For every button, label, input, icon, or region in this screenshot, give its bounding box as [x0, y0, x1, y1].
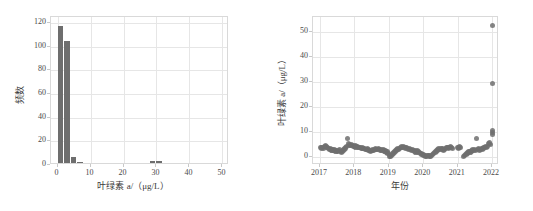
y-tick-label: 50	[286, 27, 308, 35]
panel-scatter: 01020304050 201720182019202020212022 年份 …	[266, 0, 533, 211]
scatter-point	[490, 81, 495, 86]
gridline-horizontal	[51, 23, 227, 24]
gridline-horizontal	[313, 107, 497, 108]
x-tick-label: 50	[203, 169, 239, 177]
histogram-bar	[58, 26, 64, 163]
x-tick-mark	[221, 164, 222, 167]
x-tick-label: 2017	[301, 169, 337, 177]
gridline-horizontal	[313, 157, 497, 158]
scatter-plot-area	[312, 16, 498, 164]
histogram-bar	[64, 41, 70, 163]
x-tick-mark	[457, 164, 458, 167]
scatter-point	[458, 145, 463, 150]
x-tick-mark	[90, 164, 91, 167]
y-tick-label: 20	[24, 136, 46, 144]
gridline-horizontal	[51, 70, 227, 71]
y-tick-mark	[309, 81, 312, 82]
y-tick-mark	[47, 69, 50, 70]
y-tick-label: 10	[286, 127, 308, 135]
y-tick-mark	[47, 22, 50, 23]
y-tick-label: 0	[24, 160, 46, 168]
histogram-bar	[150, 161, 156, 163]
figure-two-panel-chlorophyll: 020406080100120 01020304050 叶绿素 a/（μg/L）…	[0, 0, 533, 211]
x-tick-mark	[491, 164, 492, 167]
gridline-horizontal	[313, 82, 497, 83]
gridline-vertical	[354, 17, 355, 163]
y-tick-label: 120	[24, 18, 46, 26]
x-tick-mark	[155, 164, 156, 167]
gridline-vertical	[492, 17, 493, 163]
y-tick-label: 60	[24, 89, 46, 97]
scatter-point	[474, 136, 479, 141]
x-tick-mark	[188, 164, 189, 167]
y-tick-label: 20	[286, 102, 308, 110]
gridline-horizontal	[313, 57, 497, 58]
x-tick-mark	[57, 164, 58, 167]
x-tick-label: 2020	[404, 169, 440, 177]
y-tick-mark	[47, 46, 50, 47]
histogram-x-axis-title: 叶绿素 a/（μg/L）	[0, 182, 266, 191]
x-tick-mark	[388, 164, 389, 167]
x-tick-label: 30	[137, 169, 173, 177]
gridline-vertical	[320, 17, 321, 163]
gridline-horizontal	[313, 32, 497, 33]
y-tick-label: 40	[24, 113, 46, 121]
x-tick-label: 20	[105, 169, 141, 177]
panel-histogram: 020406080100120 01020304050 叶绿素 a/（μg/L）…	[0, 0, 266, 211]
gridline-vertical	[423, 17, 424, 163]
x-tick-label: 10	[72, 169, 108, 177]
gridline-horizontal	[51, 47, 227, 48]
y-tick-mark	[309, 131, 312, 132]
x-tick-label: 40	[170, 169, 206, 177]
x-tick-label: 2021	[439, 169, 475, 177]
x-tick-mark	[123, 164, 124, 167]
y-tick-label: 0	[286, 152, 308, 160]
y-tick-mark	[47, 140, 50, 141]
y-tick-mark	[47, 93, 50, 94]
gridline-vertical	[458, 17, 459, 163]
gridline-vertical	[389, 17, 390, 163]
x-tick-mark	[353, 164, 354, 167]
x-tick-label: 2022	[473, 169, 509, 177]
histogram-y-axis-title: 频数	[16, 86, 25, 104]
gridline-horizontal	[51, 141, 227, 142]
histogram-plot-area	[50, 16, 228, 164]
histogram-bar	[71, 157, 77, 163]
y-tick-mark	[309, 106, 312, 107]
y-tick-mark	[309, 31, 312, 32]
gridline-horizontal	[313, 132, 497, 133]
gridline-horizontal	[51, 118, 227, 119]
y-tick-mark	[309, 56, 312, 57]
scatter-y-axis-title: 叶绿素 a/（μg/L）	[278, 55, 287, 126]
scatter-point	[490, 130, 495, 135]
x-tick-mark	[319, 164, 320, 167]
gridline-horizontal	[51, 94, 227, 95]
x-tick-label: 2019	[370, 169, 406, 177]
y-tick-mark	[47, 117, 50, 118]
scatter-point	[490, 23, 495, 28]
x-tick-label: 0	[39, 169, 75, 177]
scatter-x-axis-title: 年份	[266, 182, 533, 191]
y-tick-mark	[309, 156, 312, 157]
histogram-bar	[77, 162, 83, 163]
y-tick-label: 100	[24, 42, 46, 50]
scatter-point	[345, 136, 350, 141]
y-tick-label: 80	[24, 65, 46, 73]
histogram-bar	[156, 161, 162, 163]
y-tick-label: 40	[286, 52, 308, 60]
y-tick-label: 30	[286, 77, 308, 85]
x-tick-mark	[422, 164, 423, 167]
x-tick-label: 2018	[335, 169, 371, 177]
y-tick-mark	[47, 164, 50, 165]
